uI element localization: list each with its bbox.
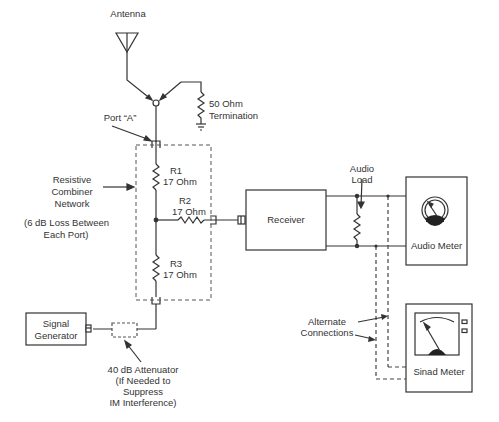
antenna-icon	[116, 33, 152, 100]
loss-note-label: (6 dB Loss Between Each Port)	[24, 217, 108, 241]
audio-meter-label: Audio Meter	[406, 240, 467, 252]
antenna-label: Antenna	[106, 8, 150, 20]
attenuator-box	[112, 323, 137, 337]
schematic-lines	[0, 0, 499, 422]
ground-icon	[196, 124, 206, 130]
termination-label: 50 Ohm Termination	[209, 98, 258, 122]
r1-value-label: 17 Ohm	[163, 176, 197, 188]
attenuator-label: 40 dB Attenuator (If Needed to Suppress …	[100, 364, 186, 408]
sinad-meter-label: Sinad Meter	[406, 366, 472, 378]
signal-generator-label: Signal Generator	[26, 318, 86, 342]
port-a-label: Port “A”	[92, 112, 148, 124]
alternate-connections-label: Alternate Connections	[296, 316, 358, 338]
audio-load-label: Audio Load	[342, 163, 382, 185]
receiver-label: Receiver	[246, 214, 326, 226]
switch-node	[153, 100, 159, 106]
r3-value-label: 17 Ohm	[163, 269, 197, 281]
r2-value-label: 17 Ohm	[172, 206, 206, 218]
schematic-diagram: Antenna 50 Ohm Termination Port “A” Resi…	[0, 0, 499, 422]
resistor-termination-icon	[198, 92, 204, 124]
combiner-network-label: Resistive Combiner Network	[44, 174, 100, 210]
